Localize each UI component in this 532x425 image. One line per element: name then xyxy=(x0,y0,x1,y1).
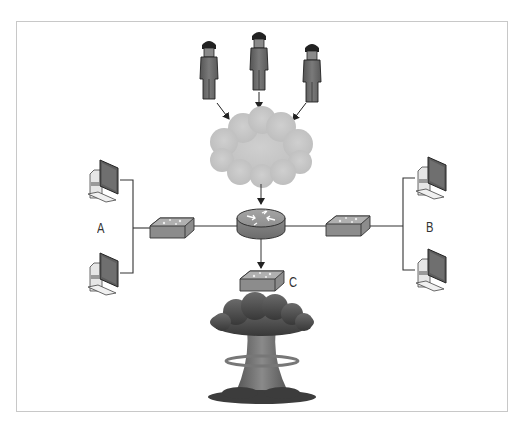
attack-arrow xyxy=(217,103,229,119)
computer-icon xyxy=(416,157,446,199)
network-diagram xyxy=(0,0,532,425)
cloud-icon xyxy=(210,106,313,188)
switch-icon xyxy=(326,216,370,236)
switch-icon xyxy=(150,218,194,238)
computer-icon xyxy=(88,253,118,295)
router-icon xyxy=(237,209,285,239)
bus-line-a xyxy=(120,180,133,273)
network-label-a: A xyxy=(97,220,104,236)
network-label-b: B xyxy=(426,219,433,235)
explosion-icon xyxy=(208,292,316,404)
attack-arrow xyxy=(293,103,306,120)
computer-icon xyxy=(88,160,118,202)
attacker-icon xyxy=(250,32,268,90)
switch-icon xyxy=(240,271,284,291)
attacker-icon xyxy=(303,44,321,102)
attacker-icon xyxy=(200,41,218,99)
bus-line-b xyxy=(403,178,415,270)
network-label-c: C xyxy=(289,274,297,290)
computer-icon xyxy=(416,249,446,291)
